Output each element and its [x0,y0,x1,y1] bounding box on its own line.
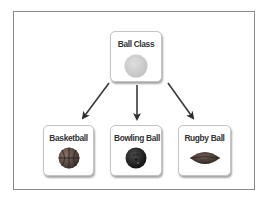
node-label: Bowling Ball [114,132,158,143]
bowling-ball-icon [125,147,147,169]
node-label: Rugby Ball [182,132,227,143]
node-label: Basketball [47,132,90,143]
node-rugby-ball: Rugby Ball [178,125,231,176]
node-basketball: Basketball [43,125,94,176]
generic-ball-icon [124,54,148,78]
node-label: Ball Class [114,38,158,49]
node-ball-class: Ball Class [110,31,162,82]
rugby-ball-icon [189,150,221,166]
basketball-icon [58,147,80,169]
node-bowling-ball: Bowling Ball [110,125,162,176]
